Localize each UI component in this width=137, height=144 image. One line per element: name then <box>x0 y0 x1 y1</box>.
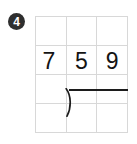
divisor-digit: 7 <box>34 50 64 73</box>
dividend-digit-2: 9 <box>97 50 127 73</box>
worksheet-canvas: 4 7 5 <box>0 0 137 144</box>
grid-cell-r3c1[interactable] <box>36 75 67 104</box>
grid-cell-r3c2[interactable] <box>66 75 97 104</box>
grid-cell-divisor[interactable]: 7 <box>36 46 67 75</box>
step-number-badge: 4 <box>8 13 25 30</box>
answer-grid: 7 5 9 <box>35 16 128 133</box>
step-number-label: 4 <box>13 15 20 27</box>
grid-cell-dividend-ones[interactable]: 9 <box>97 46 128 75</box>
grid-cell-r3c3[interactable] <box>97 75 128 104</box>
table-row <box>36 104 128 133</box>
table-row <box>36 75 128 104</box>
grid-cell-r1c3[interactable] <box>97 17 128 46</box>
grid-cell-r4c2[interactable] <box>66 104 97 133</box>
dividend-digit-1: 5 <box>67 50 97 73</box>
grid-cell-r4c3[interactable] <box>97 104 128 133</box>
grid-cell-r4c1[interactable] <box>36 104 67 133</box>
grid-table: 7 5 9 <box>35 16 128 133</box>
grid-cell-r1c2[interactable] <box>66 17 97 46</box>
table-row: 7 5 9 <box>36 46 128 75</box>
grid-cell-r1c1[interactable] <box>36 17 67 46</box>
grid-cell-dividend-tens[interactable]: 5 <box>66 46 97 75</box>
table-row <box>36 17 128 46</box>
